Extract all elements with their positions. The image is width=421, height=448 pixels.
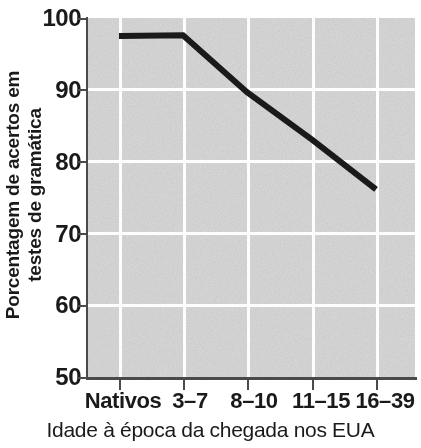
data-series-line bbox=[88, 18, 415, 378]
y-tick-label-70: 70 bbox=[33, 222, 81, 246]
plot-area bbox=[88, 18, 415, 378]
y-axis-title-line-1: Porcentagem de acertos em bbox=[2, 71, 24, 319]
y-tick-label-90: 90 bbox=[33, 78, 81, 102]
y-tick-mark-70 bbox=[77, 233, 87, 235]
x-tick-label-3-7: 3–7 bbox=[172, 390, 208, 412]
y-tick-label-50: 50 bbox=[33, 365, 81, 389]
y-tick-mark-90 bbox=[77, 89, 87, 91]
x-axis-spine bbox=[86, 377, 417, 380]
x-tick-label-16-39: 16–39 bbox=[355, 390, 414, 412]
y-tick-mark-80 bbox=[77, 161, 87, 163]
x-tick-label-11-15: 11–15 bbox=[292, 390, 350, 412]
y-tick-label-60: 60 bbox=[33, 293, 81, 317]
y-axis-tick-labels: 100 90 80 70 60 50 bbox=[33, 0, 81, 390]
x-tick-label-8-10: 8–10 bbox=[230, 390, 277, 412]
y-axis-spine bbox=[86, 17, 88, 379]
x-axis-title: Idade à época da chegada nos EUA bbox=[0, 419, 421, 440]
y-tick-mark-60 bbox=[77, 305, 87, 307]
chart-figure: Porcentagem de acertos em testes de gram… bbox=[0, 0, 421, 448]
y-tick-mark-50 bbox=[77, 377, 87, 379]
y-tick-label-80: 80 bbox=[33, 150, 81, 174]
x-tick-label-nativos: Nativos bbox=[85, 390, 162, 412]
y-tick-mark-100 bbox=[77, 18, 87, 20]
y-tick-label-100: 100 bbox=[33, 6, 81, 30]
